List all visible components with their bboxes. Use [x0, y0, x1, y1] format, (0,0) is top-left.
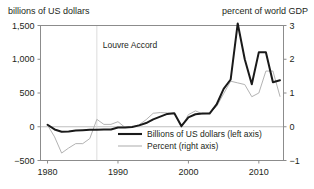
- legend-label: Percent (right axis): [147, 141, 218, 151]
- x-tick-label: 2000: [178, 167, 198, 177]
- right-tick-label: 1: [290, 88, 295, 98]
- x-tick-label: 1980: [38, 167, 58, 177]
- right-axis-tick-labels: −10123: [290, 21, 300, 166]
- series-line: [48, 23, 280, 131]
- left-tick-label: 1,500: [12, 21, 35, 31]
- left-tick-label: 500: [19, 88, 34, 98]
- right-tick-label: 3: [290, 21, 295, 31]
- left-axis-tick-labels: −50005001,0001,500: [12, 21, 35, 166]
- x-tick-label: 1990: [108, 167, 128, 177]
- left-tick-label: 1,000: [12, 54, 35, 64]
- left-tick-label: −500: [14, 156, 34, 166]
- x-tick-label: 2010: [249, 167, 269, 177]
- left-axis-title: billions of US dollars: [8, 6, 90, 17]
- chart-legend: Billions of US dollars (left axis)Percen…: [118, 129, 262, 151]
- chart-plot-area: −50005001,0001,500 −10123 19801990200020…: [0, 0, 314, 189]
- right-tick-label: 2: [290, 54, 295, 64]
- left-tick-label: 0: [29, 122, 34, 132]
- x-axis-tick-labels: 1980199020002010: [38, 167, 269, 177]
- right-tick-label: 0: [290, 122, 295, 132]
- louvre-accord-annotation: Louvre Accord: [103, 40, 158, 50]
- chart-figure: billions of US dollars percent of world …: [0, 0, 314, 189]
- legend-label: Billions of US dollars (left axis): [147, 129, 262, 139]
- right-axis-title: percent of world GDP: [222, 6, 308, 17]
- right-tick-label: −1: [290, 156, 300, 166]
